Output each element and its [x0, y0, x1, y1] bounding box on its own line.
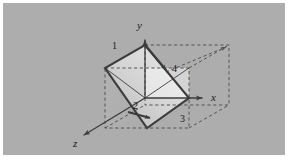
cube-edge-depth-bottom-right: [189, 105, 229, 128]
vertex-label-4: 4: [172, 64, 177, 74]
axis-label-z: z: [73, 138, 77, 149]
cube-edge-depth-top-right: [189, 45, 229, 68]
axis-label-y: y: [137, 20, 142, 31]
axis-label-x: x: [211, 92, 216, 103]
vertex-label-1: 1: [112, 41, 117, 51]
figure-drawing: [0, 0, 288, 160]
figure-root: y x z 1 2 3 4: [0, 0, 288, 160]
vertex-label-3: 3: [180, 114, 185, 124]
vertex-label-2: 2: [133, 101, 138, 111]
